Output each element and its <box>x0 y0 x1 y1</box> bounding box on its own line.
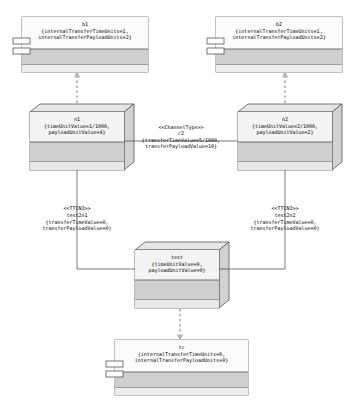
association-test2n1 <box>77 170 135 269</box>
artifact-b2-shape <box>207 17 342 72</box>
diagram-vector-layer: b1 ============ --> b2 ============ --> … <box>0 0 364 414</box>
artifact-tc-shape <box>106 340 248 395</box>
node-n1-shape <box>30 104 134 170</box>
node-test-shape <box>135 242 229 308</box>
deployment-diagram-canvas: b1 ============ --> b2 ============ --> … <box>0 0 364 414</box>
artifact-b1-shape <box>13 17 148 72</box>
node-n2-shape <box>238 104 342 170</box>
